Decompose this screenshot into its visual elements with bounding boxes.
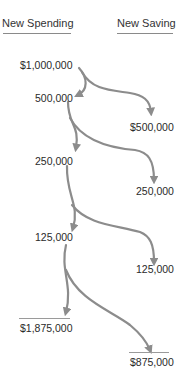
total-spending: $1,875,000: [20, 322, 73, 334]
saving-step-1: $500,000: [130, 121, 174, 133]
arrow-save-4: [66, 270, 150, 350]
spending-step-3: 250,000: [35, 155, 73, 167]
spending-step-4: 125,000: [35, 231, 73, 243]
spending-step-2: 500,000: [35, 92, 73, 104]
arrow-save-1: [82, 72, 151, 112]
total-saving: $875,000: [130, 356, 174, 368]
saving-step-2: 250,000: [136, 185, 174, 197]
arrow-spend-3: [67, 166, 75, 228]
arrow-save-3: [72, 205, 154, 262]
total-rule-saving: [129, 352, 169, 353]
spending-step-1: $1,000,000: [20, 59, 73, 71]
total-rule-spending: [19, 318, 70, 319]
arrow-spend-4: [64, 245, 68, 312]
saving-step-3: 125,000: [136, 263, 174, 275]
